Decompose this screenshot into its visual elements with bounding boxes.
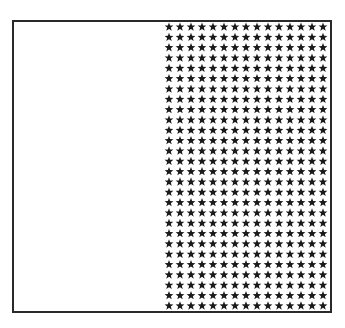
star-icon [198, 270, 207, 278]
star-icon [286, 229, 295, 237]
star-icon [165, 64, 174, 72]
star-icon [220, 33, 229, 41]
star-icon [231, 229, 240, 237]
star-icon [187, 33, 196, 41]
star-icon [297, 198, 306, 206]
star-icon [319, 177, 328, 185]
star-icon [187, 281, 196, 289]
star-icon [176, 281, 185, 289]
star-icon [286, 136, 295, 144]
star-icon [253, 22, 262, 30]
star-icon [242, 188, 251, 196]
star-icon [319, 281, 328, 289]
star-icon [209, 219, 218, 227]
star-icon [264, 95, 273, 103]
star-icon [187, 157, 196, 165]
star-icon [275, 301, 284, 309]
star-icon [176, 188, 185, 196]
star-icon [165, 105, 174, 113]
star-icon [198, 250, 207, 258]
star-icon [308, 64, 317, 72]
star-icon [253, 74, 262, 82]
star-icon [176, 208, 185, 216]
star-icon [198, 167, 207, 175]
star-icon [286, 64, 295, 72]
star-icon [231, 53, 240, 61]
star-icon [176, 33, 185, 41]
star-icon [319, 22, 328, 30]
star-icon [176, 146, 185, 154]
star-icon [253, 136, 262, 144]
star-icon [165, 43, 174, 51]
star-icon [165, 219, 174, 227]
star-icon [297, 188, 306, 196]
star-icon [165, 301, 174, 309]
star-icon [242, 167, 251, 175]
star-icon [308, 53, 317, 61]
star-icon [264, 250, 273, 258]
star-icon [308, 43, 317, 51]
star-icon [176, 43, 185, 51]
star-icon [275, 188, 284, 196]
star-icon [275, 157, 284, 165]
star-icon [165, 126, 174, 134]
star-icon [297, 157, 306, 165]
star-icon [198, 43, 207, 51]
star-icon [198, 105, 207, 113]
star-icon [286, 22, 295, 30]
star-icon [297, 270, 306, 278]
star-icon [165, 115, 174, 123]
star-icon [319, 301, 328, 309]
star-icon [209, 270, 218, 278]
star-icon [220, 250, 229, 258]
star-icon [308, 177, 317, 185]
star-icon [275, 281, 284, 289]
star-icon [297, 53, 306, 61]
star-icon [308, 219, 317, 227]
star-icon [297, 281, 306, 289]
star-icon [286, 270, 295, 278]
star-icon [319, 115, 328, 123]
star-icon [319, 146, 328, 154]
star-icon [264, 22, 273, 30]
star-icon [319, 198, 328, 206]
star-icon [264, 229, 273, 237]
star-icon [231, 167, 240, 175]
star-icon [308, 95, 317, 103]
star-icon [220, 64, 229, 72]
star-icon [165, 281, 174, 289]
star-icon [209, 250, 218, 258]
star-icon [286, 219, 295, 227]
star-icon [165, 250, 174, 258]
star-icon [264, 84, 273, 92]
star-icon [308, 115, 317, 123]
star-icon [176, 74, 185, 82]
star-icon [286, 43, 295, 51]
star-icon [319, 188, 328, 196]
star-icon [165, 260, 174, 268]
star-icon [231, 281, 240, 289]
star-icon [176, 105, 185, 113]
star-icon [253, 198, 262, 206]
star-icon [286, 146, 295, 154]
star-icon [242, 22, 251, 30]
star-icon [231, 115, 240, 123]
star-icon [253, 84, 262, 92]
star-icon [231, 198, 240, 206]
star-icon [242, 105, 251, 113]
star-icon [297, 43, 306, 51]
star-icon [253, 33, 262, 41]
star-icon [253, 219, 262, 227]
star-icon [176, 167, 185, 175]
star-icon [319, 239, 328, 247]
star-icon [297, 136, 306, 144]
star-icon [209, 301, 218, 309]
star-icon [220, 301, 229, 309]
star-icon [231, 188, 240, 196]
star-icon [176, 229, 185, 237]
star-icon [264, 33, 273, 41]
star-icon [253, 188, 262, 196]
star-icon [319, 167, 328, 175]
star-icon [198, 208, 207, 216]
star-icon [242, 229, 251, 237]
